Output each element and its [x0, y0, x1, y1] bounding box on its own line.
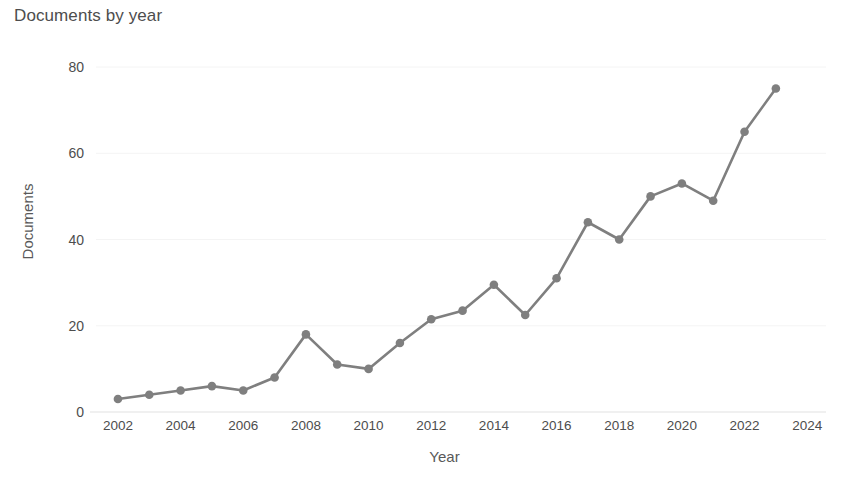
chart-container: Documents by year Documents Year 0204060…: [0, 0, 849, 482]
x-axis-tick-label: 2008: [291, 418, 321, 433]
data-point: [208, 382, 217, 391]
data-point-markers: [114, 84, 781, 403]
x-axis-tick-label: 2018: [604, 418, 634, 433]
data-point: [239, 386, 248, 395]
plot-area: 020406080 200220042006200820102012201420…: [0, 0, 849, 482]
data-point: [709, 196, 718, 205]
data-point: [521, 311, 530, 320]
x-axis-tick-label: 2014: [479, 418, 509, 433]
data-point: [646, 192, 655, 201]
x-axis-tick-label: 2022: [730, 418, 760, 433]
data-point: [678, 179, 687, 188]
data-point: [364, 365, 373, 374]
data-point: [270, 373, 279, 382]
data-point: [552, 274, 561, 283]
data-point: [584, 218, 593, 227]
x-axis-tick-label: 2010: [354, 418, 384, 433]
series-line-documents: [118, 89, 776, 400]
x-axis-tick-label: 2020: [667, 418, 697, 433]
data-point: [114, 395, 123, 404]
x-axis-tick-label: 2012: [416, 418, 446, 433]
data-point: [740, 127, 749, 136]
x-axis-tick-label: 2024: [792, 418, 822, 433]
data-point: [396, 339, 405, 348]
y-axis-tick-label: 80: [44, 59, 84, 75]
x-axis-tick-label: 2004: [166, 418, 196, 433]
x-axis-tick-label: 2006: [228, 418, 258, 433]
data-point: [427, 315, 436, 324]
data-point: [302, 330, 311, 339]
x-axis-tick-label: 2002: [103, 418, 133, 433]
data-point: [145, 390, 154, 399]
data-point: [333, 360, 342, 369]
data-point: [772, 84, 781, 93]
x-axis-tick-label: 2016: [542, 418, 572, 433]
data-point: [615, 235, 624, 244]
data-point: [490, 280, 499, 289]
y-axis-tick-label: 0: [44, 404, 84, 420]
data-point: [176, 386, 185, 395]
y-axis-tick-label: 40: [44, 232, 84, 248]
y-axis-tick-label: 20: [44, 318, 84, 334]
data-point: [458, 306, 467, 315]
line-chart-svg: [0, 0, 849, 482]
y-axis-tick-label: 60: [44, 145, 84, 161]
